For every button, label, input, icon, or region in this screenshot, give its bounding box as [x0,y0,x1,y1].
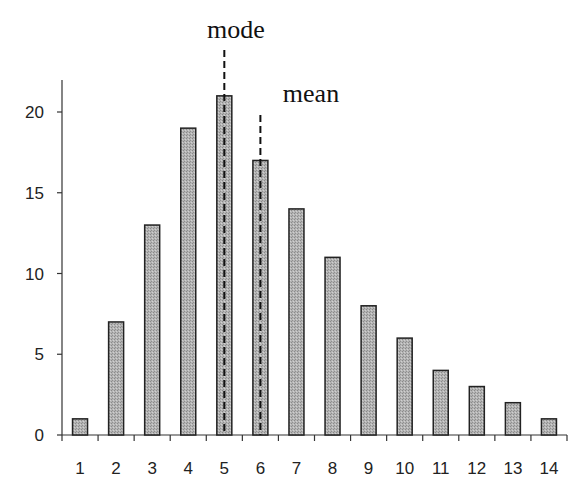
y-tick-label: 5 [35,345,44,364]
bar-12 [469,387,484,435]
bar-11 [433,370,448,435]
bar-1 [73,419,88,435]
x-tick-label: 8 [328,459,337,478]
x-tick-label: 11 [432,459,450,478]
bar-4 [181,128,196,435]
bar-10 [397,338,412,435]
mean-label: mean [283,79,339,108]
x-tick-label: 6 [256,459,265,478]
bar-13 [505,403,520,435]
x-tick-label: 4 [184,459,193,478]
bar-8 [325,257,340,435]
x-tick-label: 2 [111,459,120,478]
x-tick-label: 10 [395,459,414,478]
x-tick-label: 3 [147,459,156,478]
bar-2 [109,322,124,435]
x-tick-label: 9 [364,459,373,478]
x-tick-label: 5 [220,459,229,478]
y-tick-label: 0 [35,426,44,445]
bar-3 [145,225,160,435]
x-tick-label: 12 [467,459,486,478]
mode-label: mode [207,15,265,44]
y-tick-label: 10 [25,265,44,284]
y-tick-label: 20 [25,103,44,122]
histogram-chart: 05101520 1234567891011121314 modemean [0,0,579,492]
x-tick-label: 14 [540,459,559,478]
bar-9 [361,306,376,435]
bar-7 [289,209,304,435]
x-tick-label: 13 [503,459,522,478]
bar-14 [541,419,556,435]
x-tick-label: 1 [75,459,84,478]
x-tick-label: 7 [292,459,301,478]
x-axis: 1234567891011121314 [62,435,567,478]
y-tick-label: 15 [25,184,44,203]
y-axis: 05101520 [25,80,62,445]
bars [73,96,557,435]
